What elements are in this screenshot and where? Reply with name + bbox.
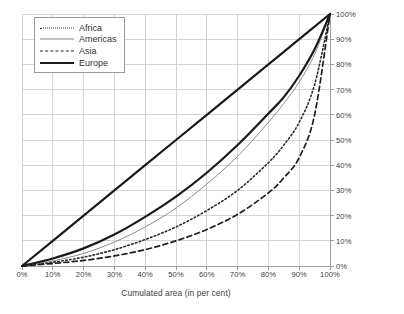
- y-tick-label: 90%: [336, 35, 352, 44]
- legend-item-americas: Americas: [40, 34, 117, 46]
- x-tick-label: 60%: [199, 270, 215, 279]
- legend-label-americas: Americas: [79, 34, 117, 44]
- x-tick-label: 70%: [230, 270, 246, 279]
- legend-swatch-africa: [40, 23, 74, 33]
- x-tick-label: 0%: [16, 270, 27, 279]
- x-tick-label: 10%: [45, 270, 61, 279]
- x-tick-label: 30%: [107, 270, 123, 279]
- y-tick-label: 10%: [336, 236, 352, 245]
- lorenz-curve-chart: 0%10%20%30%40%50%60%70%80%90%100% 0%10%2…: [0, 0, 404, 314]
- y-axis-title: Cumulated population (in per cent): [306, 0, 316, 26]
- x-tick-label: 100%: [320, 270, 340, 279]
- legend-item-asia: Asia: [40, 45, 117, 57]
- y-tick-label: 30%: [336, 186, 352, 195]
- y-tick-label: 0%: [336, 262, 347, 271]
- legend-label-europe: Europe: [79, 58, 108, 68]
- y-tick-label: 100%: [336, 10, 356, 19]
- chart-legend: Africa Americas Asia Europe: [34, 17, 125, 73]
- y-tick-label: 60%: [336, 110, 352, 119]
- y-tick-label: 50%: [336, 136, 352, 145]
- legend-item-africa: Africa: [40, 22, 117, 34]
- legend-label-africa: Africa: [79, 23, 102, 33]
- x-tick-label: 20%: [76, 270, 92, 279]
- y-tick-label: 80%: [336, 60, 352, 69]
- legend-item-europe: Europe: [40, 57, 117, 69]
- x-tick-label: 90%: [291, 270, 307, 279]
- x-tick-label: 40%: [137, 270, 153, 279]
- y-tick-label: 20%: [336, 211, 352, 220]
- x-tick-label: 50%: [168, 270, 184, 279]
- y-tick-label: 40%: [336, 161, 352, 170]
- y-tick-label: 70%: [336, 85, 352, 94]
- legend-label-asia: Asia: [79, 46, 97, 56]
- x-tick-label: 80%: [261, 270, 277, 279]
- legend-swatch-americas: [40, 34, 74, 44]
- legend-swatch-asia: [40, 46, 74, 56]
- legend-swatch-europe: [40, 58, 74, 68]
- x-axis-title: Cumulated area (in per cent): [22, 288, 330, 298]
